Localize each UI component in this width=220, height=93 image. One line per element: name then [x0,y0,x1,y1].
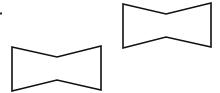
diagram-canvas [0,0,220,93]
edge-marker [0,13,2,15]
bowtie-shape-upper-right [123,3,211,48]
bowtie-shape-lower-left [12,46,101,91]
